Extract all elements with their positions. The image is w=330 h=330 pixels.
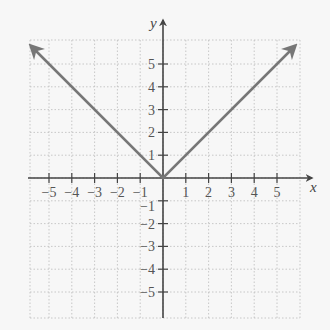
x-tick-labels: −5−4−3−2−112345 bbox=[42, 185, 281, 200]
x-tick-label: −2 bbox=[110, 185, 125, 200]
y-tick-label: −1 bbox=[140, 199, 155, 214]
y-tick-label: 1 bbox=[148, 148, 155, 163]
x-tick-label: −3 bbox=[87, 185, 102, 200]
y-tick-label: −3 bbox=[140, 239, 155, 254]
x-tick-label: 2 bbox=[205, 185, 212, 200]
x-tick-label: 3 bbox=[228, 185, 235, 200]
y-tick-label: 4 bbox=[148, 80, 155, 95]
y-tick-label: −5 bbox=[140, 285, 155, 300]
y-tick-label: −4 bbox=[140, 262, 155, 277]
y-tick-label: 2 bbox=[148, 125, 155, 140]
x-tick-label: −1 bbox=[133, 185, 148, 200]
coordinate-graph: −5−4−3−2−112345 −5−4−3−2−112345 x y bbox=[0, 0, 330, 330]
x-tick-label: −5 bbox=[42, 185, 57, 200]
x-axis-label: x bbox=[309, 179, 317, 195]
x-tick-label: −4 bbox=[64, 185, 79, 200]
x-tick-label: 5 bbox=[274, 185, 281, 200]
y-tick-label: 3 bbox=[148, 103, 155, 118]
axes bbox=[28, 20, 312, 318]
y-tick-label: −2 bbox=[140, 217, 155, 232]
y-tick-label: 5 bbox=[148, 57, 155, 72]
x-tick-label: 4 bbox=[251, 185, 258, 200]
y-axis-label: y bbox=[148, 15, 157, 31]
x-tick-label: 1 bbox=[182, 185, 189, 200]
